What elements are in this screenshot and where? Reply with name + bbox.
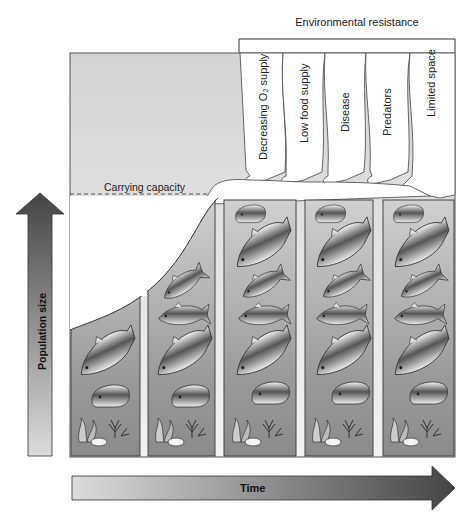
time-label: Time [240,482,265,494]
logistic-growth-diagram: Environmental resistance Carrying capaci… [0,0,472,521]
factor-decreasing-o2: Decreasing O₂ supply [257,54,269,160]
factor-low-food: Low food supply [298,64,310,144]
factor-limited-space: Limited space [425,49,437,117]
carrying-capacity-label: Carrying capacity [104,181,185,193]
factor-predators: Predators [381,88,393,136]
resistance-arms [207,53,455,204]
bracket [239,39,455,53]
environmental-resistance-title: Environmental resistance [262,16,452,28]
factor-disease: Disease [339,92,351,132]
diagram-canvas [0,0,472,521]
population-size-label: Population size [36,293,48,370]
